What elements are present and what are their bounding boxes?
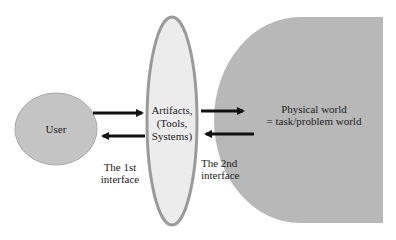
physical-world-label: Physical world = task/problem world: [262, 103, 366, 127]
artifacts-label: Artifacts, (Tools, Systems): [143, 104, 201, 143]
artifacts-label-line-2: (Tools,: [143, 117, 201, 130]
first-interface-line-1: The 1st: [96, 161, 144, 173]
first-interface-label: The 1st interface: [96, 161, 144, 185]
artifacts-label-line-3: Systems): [143, 130, 201, 143]
second-interface-label: The 2nd interface: [201, 157, 249, 181]
user-label: User: [35, 123, 77, 135]
second-interface-line-1: The 2nd: [201, 157, 249, 169]
first-interface-line-2: interface: [96, 173, 144, 185]
physical-world-label-line-1: Physical world: [262, 103, 366, 115]
artifacts-label-line-1: Artifacts,: [143, 104, 201, 117]
second-interface-line-2: interface: [201, 169, 249, 181]
physical-world-label-line-2: = task/problem world: [262, 115, 366, 127]
